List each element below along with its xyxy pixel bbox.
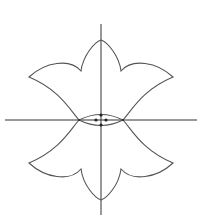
left-intersection bbox=[78, 119, 80, 121]
top-point bbox=[99, 113, 102, 116]
diagram-canvas bbox=[0, 0, 197, 222]
flower-curve-diagram bbox=[0, 0, 197, 222]
right-point bbox=[104, 118, 107, 121]
left-point bbox=[94, 118, 97, 121]
right-intersection bbox=[122, 119, 124, 121]
bottom-point bbox=[99, 123, 102, 126]
